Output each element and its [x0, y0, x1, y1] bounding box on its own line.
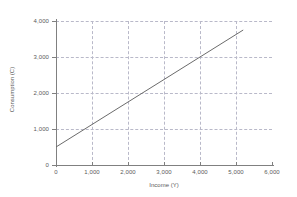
data-series-line — [0, 0, 297, 197]
x-axis-title: Income (Y) — [56, 182, 272, 189]
y-axis-title: Consumption (C) — [9, 45, 16, 135]
consumption-function-chart: 01,0002,0003,0004,000 01,0002,0003,0004,… — [0, 0, 297, 197]
